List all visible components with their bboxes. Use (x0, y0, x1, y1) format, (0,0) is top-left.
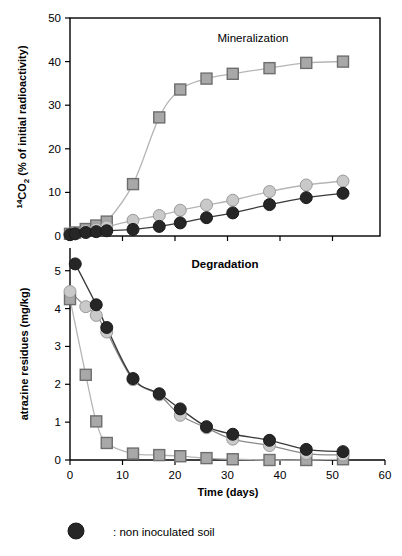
data-point-circle (69, 258, 81, 270)
data-point-circle (174, 403, 186, 415)
data-point-circle (227, 194, 239, 206)
data-point-circle (300, 179, 312, 191)
data-point-circle (101, 225, 113, 237)
panel-title-mineralization: Mineralization (218, 32, 289, 44)
legend-label: : non inoculated soil (113, 526, 215, 538)
data-point-circle (201, 421, 213, 433)
data-point-circle (201, 212, 213, 224)
data-point-square (301, 57, 312, 68)
data-point-circle (153, 210, 165, 222)
data-point-circle (337, 175, 349, 187)
x-tick-label: 10 (116, 469, 129, 481)
data-point-square (338, 56, 349, 67)
y-tick-label: 50 (48, 12, 61, 24)
data-point-circle (264, 434, 276, 446)
y-tick-label: 10 (48, 186, 61, 198)
y-tick-label: 2 (55, 378, 61, 390)
data-point-circle (90, 299, 102, 311)
x-tick-label: 20 (169, 469, 182, 481)
data-point-square (201, 453, 212, 464)
data-point-square (154, 450, 165, 461)
data-point-circle (80, 301, 92, 313)
data-point-square (264, 455, 275, 466)
y-tick-label: 0 (55, 230, 61, 242)
y-title-rest: (% of initial radioactivity) (16, 45, 28, 179)
y-tick-label: 4 (55, 303, 62, 315)
data-point-square (101, 437, 112, 448)
data-point-circle (174, 217, 186, 229)
data-point-circle (127, 223, 139, 235)
data-point-square (175, 451, 186, 462)
panel-title-degradation: Degradation (191, 258, 258, 270)
data-point-circle (337, 187, 349, 199)
bottom-y-axis-title: atrazine residues (mg/kg) (18, 287, 30, 420)
x-tick-label: 0 (67, 469, 73, 481)
x-tick-label: 40 (274, 469, 287, 481)
data-point-circle (227, 428, 239, 440)
top-plot-frame (70, 18, 380, 236)
y-tick-label: 40 (48, 56, 61, 68)
y-tick-label: 3 (55, 340, 61, 352)
data-point-square (227, 454, 238, 465)
legend-marker-circle-icon (68, 523, 84, 539)
data-point-circle (264, 186, 276, 198)
data-point-circle (201, 199, 213, 211)
data-point-circle (264, 199, 276, 211)
y-tick-label: 1 (55, 416, 61, 428)
data-point-circle (300, 192, 312, 204)
y-tick-label: 20 (48, 143, 61, 155)
y-tick-label: 30 (48, 99, 61, 111)
data-point-square (91, 416, 102, 427)
y-title-main: CO (16, 183, 28, 200)
x-tick-label: 30 (221, 469, 234, 481)
data-point-circle (153, 388, 165, 400)
data-point-square (154, 112, 165, 123)
x-tick-label: 60 (379, 469, 392, 481)
panel-mineralization: 01020304050 Mineralization (48, 12, 380, 242)
x-tick-label: 50 (326, 469, 339, 481)
y-tick-label: 5 (55, 265, 61, 277)
data-point-circle (64, 286, 76, 298)
figure-root: 01020304050 Mineralization 14CO2 (% of i… (0, 0, 402, 556)
y-tick-label: 0 (55, 454, 61, 466)
data-point-circle (101, 322, 113, 334)
data-point-square (128, 179, 139, 190)
data-point-circle (227, 207, 239, 219)
data-point-square (128, 448, 139, 459)
data-point-square (80, 369, 91, 380)
svg-text:atrazine residues (mg/kg): atrazine residues (mg/kg) (18, 287, 30, 420)
data-point-circle (300, 443, 312, 455)
x-axis-title: Time (days) (198, 486, 259, 498)
data-point-square (264, 63, 275, 74)
data-point-square (201, 73, 212, 84)
data-point-circle (127, 373, 139, 385)
data-point-square (175, 84, 186, 95)
data-point-circle (337, 446, 349, 458)
data-point-circle (174, 204, 186, 216)
data-point-circle (153, 220, 165, 232)
data-point-square (227, 68, 238, 79)
